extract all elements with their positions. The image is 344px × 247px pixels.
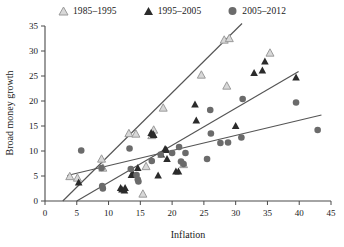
data-point-circle bbox=[78, 147, 85, 154]
y-tick-label: 15 bbox=[29, 121, 39, 131]
data-point-triangle bbox=[154, 172, 162, 179]
data-point-triangle bbox=[261, 58, 269, 65]
y-tick-label: 30 bbox=[29, 46, 39, 56]
data-point-open-triangle bbox=[266, 49, 274, 56]
trend-line bbox=[67, 115, 321, 176]
data-point-circle bbox=[180, 161, 187, 168]
y-axis-title: Broad money growth bbox=[4, 71, 15, 156]
data-point-circle bbox=[126, 145, 133, 152]
trend-line bbox=[63, 24, 242, 202]
y-tick-label: 25 bbox=[29, 71, 39, 81]
x-tick-label: 35 bbox=[263, 208, 273, 218]
x-tick-label: 45 bbox=[327, 208, 337, 218]
scatter-chart-figure: 1985–1995 1995–2005 2005–2012 0510152025… bbox=[0, 0, 344, 247]
data-point-circle bbox=[157, 151, 164, 158]
trend-lines bbox=[63, 24, 322, 202]
data-point-circle bbox=[208, 130, 215, 137]
trend-line bbox=[77, 72, 299, 202]
data-point-circle bbox=[182, 150, 189, 157]
x-tick-label: 10 bbox=[104, 208, 114, 218]
data-point-triangle bbox=[250, 69, 258, 76]
y-tick-label: 35 bbox=[29, 21, 39, 31]
data-points bbox=[66, 34, 321, 197]
data-point-open-triangle bbox=[98, 155, 106, 162]
data-point-circle bbox=[98, 165, 105, 172]
data-point-triangle bbox=[191, 101, 199, 108]
x-tick-label: 40 bbox=[295, 208, 305, 218]
x-axis-title: Inflation bbox=[171, 229, 205, 240]
data-point-open-triangle bbox=[73, 174, 81, 181]
y-tick-label: 0 bbox=[34, 196, 39, 206]
data-point-circle bbox=[238, 134, 245, 141]
data-point-circle bbox=[239, 96, 246, 103]
data-point-open-triangle bbox=[66, 172, 74, 179]
data-point-triangle bbox=[232, 122, 240, 129]
plot-area: 051015202530354045 05101520253035 Inflat… bbox=[0, 0, 344, 247]
data-point-circle bbox=[135, 178, 142, 185]
data-point-circle bbox=[225, 139, 232, 146]
data-point-circle bbox=[169, 150, 176, 157]
x-axis-ticks: 051015202530354045 bbox=[43, 201, 336, 218]
data-point-triangle bbox=[259, 67, 267, 74]
data-point-open-triangle bbox=[139, 190, 147, 197]
data-point-circle bbox=[217, 140, 224, 147]
data-point-triangle bbox=[192, 117, 200, 124]
data-point-circle bbox=[176, 144, 183, 151]
data-point-open-triangle bbox=[225, 34, 233, 41]
x-tick-label: 25 bbox=[199, 208, 209, 218]
x-tick-label: 20 bbox=[168, 208, 178, 218]
data-point-circle bbox=[128, 166, 135, 173]
y-tick-label: 5 bbox=[34, 171, 39, 181]
data-point-circle bbox=[314, 127, 321, 134]
y-tick-label: 10 bbox=[29, 146, 39, 156]
data-point-circle bbox=[148, 158, 155, 165]
data-point-circle bbox=[100, 185, 107, 192]
data-point-triangle bbox=[163, 155, 171, 162]
data-point-open-triangle bbox=[142, 162, 150, 169]
x-tick-label: 15 bbox=[136, 208, 146, 218]
x-tick-label: 0 bbox=[43, 208, 48, 218]
data-point-open-triangle bbox=[197, 71, 205, 78]
y-tick-label: 20 bbox=[29, 96, 39, 106]
data-point-circle bbox=[204, 156, 211, 163]
y-axis-ticks: 05101520253035 bbox=[29, 21, 45, 206]
data-point-circle bbox=[293, 99, 300, 106]
data-point-circle bbox=[207, 107, 214, 114]
x-tick-label: 5 bbox=[75, 208, 80, 218]
x-tick-label: 30 bbox=[231, 208, 241, 218]
data-point-open-triangle bbox=[223, 82, 231, 89]
